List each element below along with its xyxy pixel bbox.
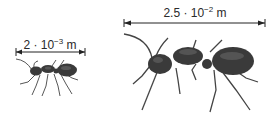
small-ant-icon [16, 59, 78, 96]
small-ant-dimension-line [16, 48, 85, 56]
large-ant-dimension-line [124, 19, 265, 27]
ant-size-comparison-figure: 2 · 10−3 m 2.5 · 10−2 m [0, 0, 279, 119]
large-ant-icon [124, 34, 258, 112]
ant-illustrations [0, 0, 279, 119]
